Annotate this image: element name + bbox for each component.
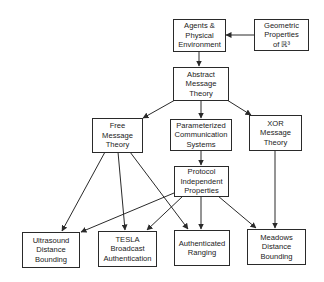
node-geometric-properties: Geometric Properties of ℝ³ — [254, 19, 309, 51]
edge-free-tesla — [118, 152, 125, 230]
node-label-line: Free — [110, 121, 126, 130]
node-label-line: Message — [186, 79, 217, 88]
node-label-line: Properties — [264, 30, 299, 39]
node-label-line: Authenticated — [179, 239, 225, 248]
node-label-line: Message — [260, 128, 291, 137]
node-label-line: Meadows — [260, 233, 293, 242]
node-protocol-independent-properties: Protocol Independent Properties — [174, 166, 229, 197]
node-label-line: Agents & — [184, 21, 215, 30]
node-label-line: Parameterized — [176, 121, 225, 130]
node-label-line: Ranging — [188, 248, 216, 257]
node-label-line: Environment — [178, 40, 221, 49]
node-abstract-message-theory: Abstract Message Theory — [173, 67, 229, 101]
node-label-line: Theory — [189, 89, 213, 98]
edge-abstract-free — [143, 100, 175, 118]
edge-protocol-ultrasound — [81, 193, 174, 232]
flow-diagram: Agents & Physical Environment Geometric … — [0, 0, 324, 282]
node-label-line: TESLA — [115, 235, 139, 244]
node-parameterized-communication-systems: Parameterized Communication Systems — [170, 119, 232, 151]
node-free-message-theory: Free Message Theory — [92, 118, 143, 153]
node-xor-message-theory: XOR Message Theory — [249, 115, 302, 151]
node-label-line: Independent — [180, 177, 222, 186]
node-label-line: Theory — [106, 140, 130, 149]
edge-abstract-xor — [227, 100, 251, 115]
node-label-line: Distance — [262, 242, 292, 251]
node-agents-physical-environment: Agents & Physical Environment — [173, 19, 226, 52]
node-label-line: Ultrasound — [33, 236, 70, 245]
node-ultrasound-distance-bounding: Ultrasound Distance Bounding — [22, 232, 80, 268]
node-meadows-distance-bounding: Meadows Distance Bounding — [247, 229, 306, 265]
node-label-line: Abstract — [187, 70, 215, 79]
node-label-line: Physical — [185, 31, 213, 40]
node-tesla-broadcast-authentication: TESLA Broadcast Authentication — [98, 231, 157, 267]
node-label-line: Broadcast — [110, 244, 144, 253]
node-label-line: of ℝ³ — [273, 40, 290, 49]
edge-free-ultrasound — [62, 152, 105, 231]
edge-protocol-tesla — [147, 196, 183, 230]
node-label-line: Bounding — [260, 252, 292, 261]
node-label-line: Communication — [175, 130, 228, 139]
edge-protocol-meadows — [218, 196, 256, 228]
node-label-line: XOR — [267, 119, 283, 128]
node-label-line: Authentication — [103, 254, 151, 263]
node-label-line: Distance — [36, 245, 66, 254]
node-label-line: Theory — [264, 138, 288, 147]
node-label-line: Systems — [186, 140, 215, 149]
node-label-line: Protocol — [188, 167, 216, 176]
node-label-line: Message — [102, 131, 133, 140]
node-label-line: Bounding — [35, 255, 67, 264]
node-label-line: Geometric — [264, 21, 299, 30]
node-authenticated-ranging: Authenticated Ranging — [174, 230, 230, 266]
node-label-line: Properties — [184, 186, 219, 195]
